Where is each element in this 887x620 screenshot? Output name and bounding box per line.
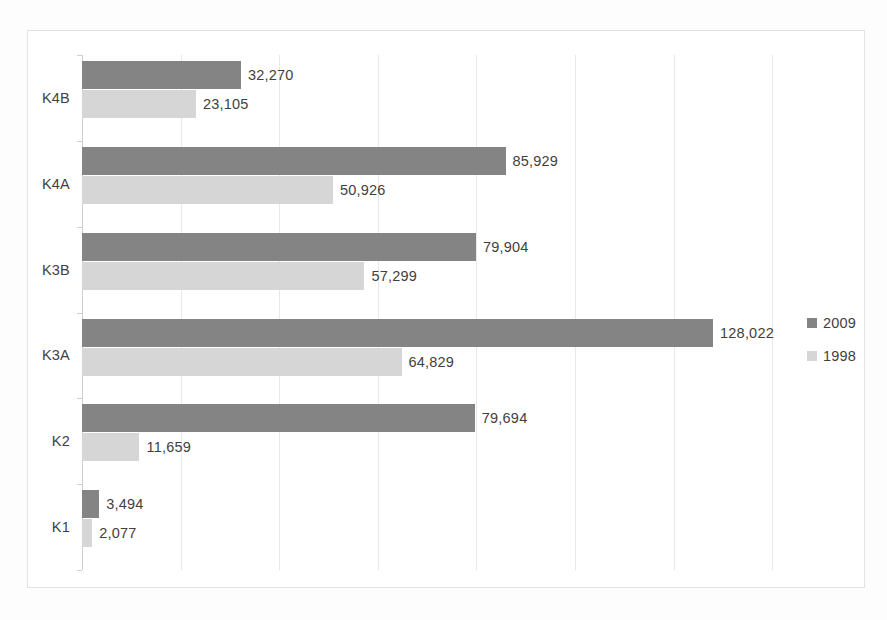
legend-item-2009[interactable]: 2009 [807,315,887,331]
chart-legend: 20091998 [807,315,887,381]
bar-value-1998-k4a: 50,926 [340,182,386,198]
legend-label-2009: 2009 [823,315,856,331]
axis-tick [77,55,82,56]
bar-1998-k4b[interactable]: 23,105 [82,90,196,118]
bar-1998-k1[interactable]: 2,077 [82,519,92,547]
bar-value-1998-k4b: 23,105 [203,96,249,112]
bar-1998-k2[interactable]: 11,659 [82,433,139,461]
legend-swatch-icon-1998 [807,351,817,361]
bar-2009-k4a[interactable]: 85,929 [82,147,506,175]
axis-tick [77,141,82,142]
category-label-k4b: K4B [42,90,70,106]
category-row: K13,4942,077 [82,484,782,570]
axis-tick [77,227,82,228]
chart-page: K4B32,27023,105K4A85,92950,926K3B79,9045… [0,0,887,620]
category-row: K279,69411,659 [82,398,782,484]
category-label-k2: K2 [52,433,70,449]
category-label-k3a: K3A [42,347,70,363]
category-label-k4a: K4A [42,176,70,192]
bar-2009-k1[interactable]: 3,494 [82,490,99,518]
bar-1998-k3b[interactable]: 57,299 [82,262,364,290]
bar-value-2009-k3a: 128,022 [720,325,774,341]
bar-value-1998-k1: 2,077 [99,525,136,541]
category-label-k1: K1 [52,519,70,535]
legend-label-1998: 1998 [823,348,856,364]
axis-tick [77,313,82,314]
bar-value-2009-k2: 79,694 [482,410,528,426]
axis-tick [77,570,82,571]
bar-value-1998-k3a: 64,829 [409,354,455,370]
bar-2009-k4b[interactable]: 32,270 [82,61,241,89]
bar-value-1998-k3b: 57,299 [371,268,417,284]
bar-value-2009-k3b: 79,904 [483,239,529,255]
bar-value-2009-k4b: 32,270 [248,67,294,83]
grouped-bar-chart: K4B32,27023,105K4A85,92950,926K3B79,9045… [27,30,865,588]
bar-1998-k4a[interactable]: 50,926 [82,176,333,204]
category-row: K3B79,90457,299 [82,227,782,313]
category-label-k3b: K3B [42,262,70,278]
bar-2009-k2[interactable]: 79,694 [82,404,475,432]
plot-area: K4B32,27023,105K4A85,92950,926K3B79,9045… [82,55,782,570]
axis-tick [77,484,82,485]
axis-tick [77,398,82,399]
legend-item-1998[interactable]: 1998 [807,348,887,364]
bar-2009-k3a[interactable]: 128,022 [82,319,713,347]
category-row: K3A128,02264,829 [82,313,782,399]
category-row: K4A85,92950,926 [82,141,782,227]
bar-2009-k3b[interactable]: 79,904 [82,233,476,261]
bar-1998-k3a[interactable]: 64,829 [82,348,402,376]
category-row: K4B32,27023,105 [82,55,782,141]
bar-value-2009-k1: 3,494 [106,496,143,512]
legend-swatch-icon-2009 [807,318,817,328]
bar-value-1998-k2: 11,659 [146,439,190,455]
bar-value-2009-k4a: 85,929 [513,153,559,169]
